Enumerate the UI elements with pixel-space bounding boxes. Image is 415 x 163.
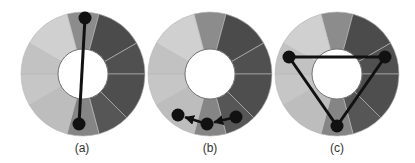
wheel-hole — [185, 49, 235, 99]
panel-b — [148, 12, 272, 136]
marker-dot — [283, 51, 296, 64]
panel-label-c: (c) — [330, 141, 344, 155]
color-wheel — [148, 12, 272, 136]
marker-dot — [201, 118, 214, 131]
marker-dot — [331, 120, 344, 133]
marker-dot — [73, 118, 86, 131]
color-wheel-figure: (a) (b) (c) — [0, 0, 415, 163]
panel-label-a: (a) — [75, 141, 90, 155]
marker-dot — [79, 12, 92, 25]
color-wheel — [275, 12, 399, 136]
panel-c — [275, 12, 399, 136]
panel-a — [21, 12, 145, 137]
marker-dot — [172, 109, 185, 122]
panel-label-b: (b) — [203, 141, 218, 155]
marker-dot — [379, 51, 392, 64]
marker-dot — [230, 111, 243, 124]
